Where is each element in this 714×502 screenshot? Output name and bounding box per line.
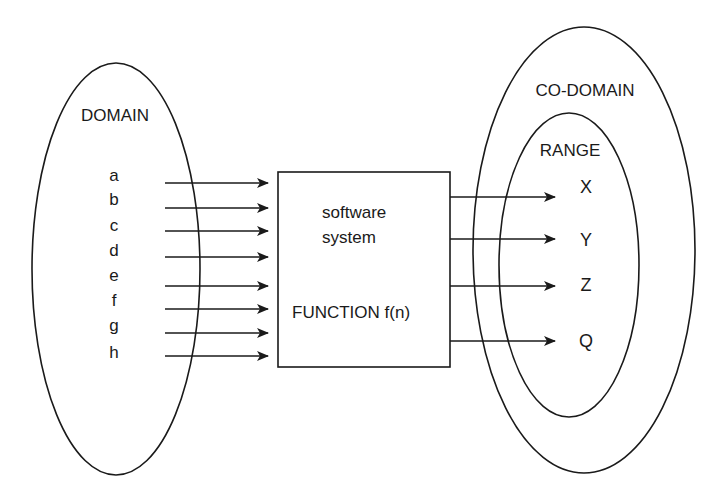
input-arrows [165, 183, 268, 356]
domain-item-a: a [109, 166, 119, 185]
range-items: X Y Z Q [579, 177, 593, 351]
domain-item-b: b [109, 190, 118, 209]
function-box [278, 172, 450, 367]
domain-item-g: g [109, 316, 118, 335]
range-item-x: X [580, 177, 592, 197]
range-item-q: Q [579, 331, 593, 351]
range-label: RANGE [540, 141, 600, 160]
domain-items: a b c d e f g h [109, 166, 119, 362]
range-item-y: Y [580, 230, 592, 250]
function-mapping-diagram: DOMAIN a b c d e f g h software system F… [0, 0, 714, 502]
domain-label: DOMAIN [81, 106, 149, 125]
codomain-label: CO-DOMAIN [535, 81, 634, 100]
range-item-z: Z [581, 275, 592, 295]
domain-item-e: e [109, 266, 118, 285]
domain-item-d: d [109, 241, 118, 260]
function-box-line3: FUNCTION f(n) [292, 303, 410, 322]
function-box-line2: system [322, 228, 376, 247]
function-box-line1: software [322, 203, 386, 222]
domain-item-h: h [109, 343, 118, 362]
domain-item-f: f [112, 291, 117, 310]
domain-item-c: c [110, 216, 119, 235]
